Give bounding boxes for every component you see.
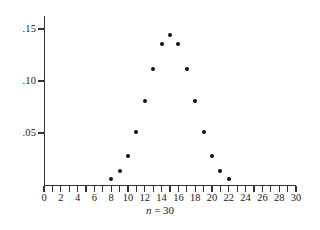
binomial-distribution-scatter-chart: .05.10.15 024681012141618202224262830 n …: [0, 0, 320, 230]
data-point: [202, 130, 206, 134]
data-point: [210, 154, 214, 158]
data-point: [168, 33, 172, 37]
data-point: [193, 99, 197, 103]
data-point: [218, 169, 222, 173]
data-point: [160, 42, 164, 46]
data-point: [134, 130, 138, 134]
data-point: [118, 169, 122, 173]
data-point: [126, 154, 130, 158]
data-point: [185, 67, 189, 71]
data-point: [151, 67, 155, 71]
data-point: [227, 177, 231, 181]
data-points-layer: [0, 0, 320, 230]
data-point: [143, 99, 147, 103]
caption-value: 30: [163, 204, 174, 216]
data-point: [176, 42, 180, 46]
chart-caption: n = 30: [0, 204, 320, 216]
data-point: [109, 177, 113, 181]
